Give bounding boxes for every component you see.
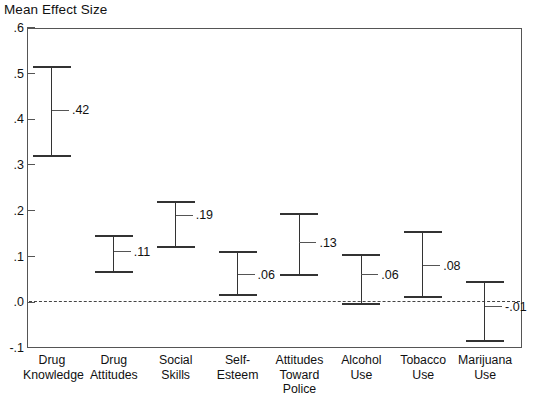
category-label-line: Toward — [271, 368, 329, 383]
category-label-line: Self- — [209, 353, 267, 368]
category-label-line: Skills — [147, 368, 205, 383]
plot-area-frame — [27, 28, 522, 348]
point-marker — [176, 215, 193, 216]
category-label-line: Use — [332, 368, 390, 383]
point-value-label: .42 — [72, 103, 89, 117]
point-value-label: .13 — [319, 236, 336, 250]
y-axis-tick-label: .6 — [0, 21, 24, 35]
category-label-line: Drug — [23, 353, 81, 368]
y-axis-tick — [27, 210, 35, 211]
point-marker — [52, 110, 69, 111]
error-bar-whisker — [51, 67, 52, 156]
point-value-label: .06 — [381, 268, 398, 282]
error-bar-cap-upper — [342, 254, 380, 256]
category-label-line: Drug — [85, 353, 143, 368]
category-label-line: Social — [147, 353, 205, 368]
error-bar-cap-lower — [466, 340, 504, 342]
category-label-line: Attitudes — [271, 353, 329, 368]
y-axis-tick — [27, 27, 35, 28]
error-bar-cap-lower — [219, 294, 257, 296]
error-bar-whisker — [175, 202, 176, 248]
category-label-line: Use — [394, 368, 452, 383]
x-axis-category-label: MarijuanaUse — [456, 353, 514, 382]
x-axis-category-label: TobaccoUse — [394, 353, 452, 382]
y-axis-tick-label: .2 — [0, 204, 24, 218]
x-axis-category-label: AlcoholUse — [332, 353, 390, 382]
y-axis-tick — [27, 119, 35, 120]
y-axis-tick — [27, 164, 35, 165]
category-label-line: Marijuana — [456, 353, 514, 368]
zero-reference-line — [29, 301, 520, 302]
y-axis-tick-label: .0 — [0, 295, 24, 309]
y-axis-tick-label: .1 — [0, 250, 24, 264]
x-axis-category-label: Self-Esteem — [209, 353, 267, 382]
point-marker — [485, 306, 502, 307]
y-axis-tick-label: .3 — [0, 158, 24, 172]
x-axis-category-label: SocialSkills — [147, 353, 205, 382]
error-bar-cap-upper — [157, 201, 195, 203]
x-axis-category-label: DrugKnowledge — [23, 353, 81, 382]
y-axis-tick — [27, 347, 35, 348]
chart-figure: Mean Effect Size .6.5.4.3.2.1.0-.1 .42.1… — [0, 0, 534, 403]
error-bar-whisker — [361, 255, 362, 305]
y-axis-tick — [27, 256, 35, 257]
category-label-line: Police — [271, 382, 329, 397]
point-marker — [238, 274, 255, 275]
point-marker — [114, 251, 131, 252]
point-marker — [361, 274, 378, 275]
x-axis-category-label: DrugAttitudes — [85, 353, 143, 382]
point-marker — [299, 242, 316, 243]
error-bar-whisker — [484, 282, 485, 341]
x-axis-category-label: AttitudesTowardPolice — [271, 353, 329, 397]
category-label-line: Attitudes — [85, 368, 143, 383]
error-bar-cap-upper — [33, 66, 71, 68]
error-bar-cap-upper — [280, 213, 318, 215]
point-marker — [423, 265, 440, 266]
y-axis-tick-label: -.1 — [0, 341, 24, 355]
error-bar-whisker — [113, 236, 114, 273]
error-bar-cap-lower — [33, 155, 71, 157]
y-axis-tick-label: .5 — [0, 67, 24, 81]
error-bar-whisker — [299, 214, 300, 275]
point-value-label: .11 — [134, 245, 150, 259]
category-label-line: Tobacco — [394, 353, 452, 368]
error-bar-cap-lower — [280, 274, 318, 276]
error-bar-cap-lower — [342, 303, 380, 305]
error-bar-cap-upper — [466, 281, 504, 283]
error-bar-cap-lower — [95, 271, 133, 273]
y-axis-tick — [27, 73, 35, 74]
point-value-label: .06 — [258, 268, 275, 282]
error-bar-cap-upper — [404, 231, 442, 233]
error-bar-cap-upper — [95, 235, 133, 237]
point-value-label: -.01 — [505, 300, 527, 314]
error-bar-cap-lower — [157, 246, 195, 248]
error-bar-cap-upper — [219, 251, 257, 253]
point-value-label: .08 — [443, 259, 460, 273]
y-axis-tick-label: .4 — [0, 112, 24, 126]
category-label-line: Knowledge — [23, 368, 81, 383]
error-bar-cap-lower — [404, 296, 442, 298]
category-label-line: Use — [456, 368, 514, 383]
y-axis-title: Mean Effect Size — [4, 2, 107, 17]
point-value-label: .19 — [196, 208, 213, 222]
category-label-line: Esteem — [209, 368, 267, 383]
category-label-line: Alcohol — [332, 353, 390, 368]
